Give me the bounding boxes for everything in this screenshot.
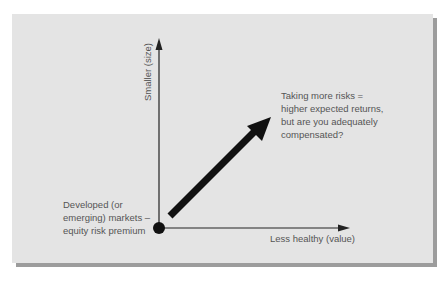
origin-label-line: equity risk premium <box>63 224 150 237</box>
risk-return-label-line: but are you adequately <box>281 115 383 128</box>
x-axis-arrowhead-icon <box>338 225 350 232</box>
risk-return-label-line: Taking more risks = <box>281 89 383 102</box>
origin-label: Developed (or emerging) markets – equity… <box>63 198 150 237</box>
x-axis <box>159 225 350 232</box>
origin-label-line: emerging) markets – <box>63 211 150 224</box>
y-axis-arrowhead-icon <box>156 38 163 50</box>
risk-direction-arrow <box>170 117 271 216</box>
x-axis-label: Less healthy (value) <box>270 233 355 244</box>
origin-dot <box>153 222 165 234</box>
y-axis-label: Smaller (size) <box>142 43 153 101</box>
y-axis <box>156 38 163 228</box>
risk-return-label-line: higher expected returns, <box>281 102 383 115</box>
risk-return-label-line: compensated? <box>281 128 383 141</box>
risk-return-label: Taking more risks = higher expected retu… <box>281 89 383 141</box>
origin-label-line: Developed (or <box>63 198 150 211</box>
